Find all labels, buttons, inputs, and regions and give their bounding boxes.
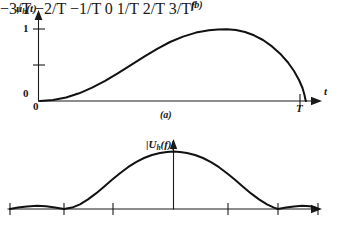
panel-b-y-axis-label-close: | [172,138,174,150]
panel-a-plot [0,0,338,126]
panel-b-y-axis-label: |Uh(f)| [146,139,174,150]
panel-a-x-tick-label-0: 0 [33,101,39,112]
panel-a-y-axis-label-sub: h [22,7,26,16]
panel-a-x-axis-label: t [324,86,327,97]
panel-b-main-lobe-curve [64,152,278,210]
figure-root: uh(t) 1 0 0 T t (a) |Uh(f)| −3/T −2/T −1… [0,0,338,252]
panel-a-y-tick-label-0: 0 [23,88,29,99]
panel-b-caption: (b) [191,0,203,10]
panel-b-y-axis-label-arg: (f) [161,138,172,150]
panel-a-y-axis-label-arg: (t) [26,2,36,14]
panel-a-caption: (a) [160,110,172,120]
panel-a-x-axis-arrowhead [311,97,322,105]
panel-a-x-tick-label-T: T [296,103,303,114]
panel-a-y-axis-label: uh(t) [16,3,37,14]
panel-b-y-axis-label-sub: h [156,143,160,152]
panel-a-curve [40,29,306,101]
panel-a-y-tick-label-1: 1 [23,23,29,34]
